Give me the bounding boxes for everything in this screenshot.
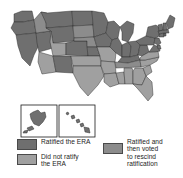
- state-SD: [73, 25, 94, 38]
- state-VT: [158, 24, 163, 31]
- map-area: [0, 0, 183, 140]
- state-CO: [66, 41, 88, 56]
- state-CA: [16, 33, 39, 66]
- legend-entry-ratified: Ratified the ERA: [17, 138, 105, 150]
- state-TX: [73, 66, 104, 96]
- legend-entry-not-ratified: Did not ratify the ERA: [17, 153, 105, 168]
- state-NM: [53, 56, 73, 73]
- state-ND: [72, 11, 93, 26]
- legend-label-ratified: Ratified the ERA: [41, 138, 91, 145]
- state-RI: [164, 33, 166, 36]
- state-OK: [71, 56, 101, 66]
- legend-swatch-not-ratified: [17, 154, 37, 165]
- us-map-svg: [0, 0, 183, 140]
- state-MT: [41, 11, 73, 28]
- legend-column-right: Ratified and then voted to rescind ratif…: [103, 138, 183, 171]
- legend-label-rescinded: Ratified and then voted to rescind ratif…: [127, 138, 163, 168]
- legend-label-not-ratified: Did not ratify the ERA: [41, 153, 79, 168]
- legend-column-left: Ratified the ERA Did not ratify the ERA: [17, 138, 105, 171]
- state-AL: [124, 68, 133, 84]
- legend-swatch-rescinded: [103, 143, 123, 154]
- state-NJ: [154, 38, 161, 45]
- state-AR: [101, 61, 116, 74]
- state-MI: [120, 21, 134, 42]
- legend-entry-rescinded: Ratified and then voted to rescind ratif…: [103, 138, 183, 168]
- era-ratification-map-figure: Ratified the ERA Did not ratify the ERA …: [0, 0, 183, 178]
- state-ME: [166, 15, 175, 29]
- legend-swatch-ratified: [17, 139, 37, 150]
- map-legend: Ratified the ERA Did not ratify the ERA …: [0, 138, 183, 178]
- state-OR: [11, 20, 36, 35]
